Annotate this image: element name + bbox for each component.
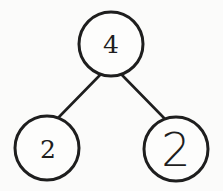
part-right-value: 2 — [161, 123, 190, 177]
part-node-right: 2 — [144, 117, 208, 181]
part-node-left: 2 — [15, 116, 79, 180]
part-left-value: 2 — [40, 135, 56, 164]
whole-node: 4 — [79, 12, 143, 76]
number-bond-diagram: 4 2 2 — [0, 0, 223, 191]
connector-right — [121, 74, 165, 119]
whole-value: 4 — [103, 30, 119, 59]
connector-left — [58, 74, 101, 118]
